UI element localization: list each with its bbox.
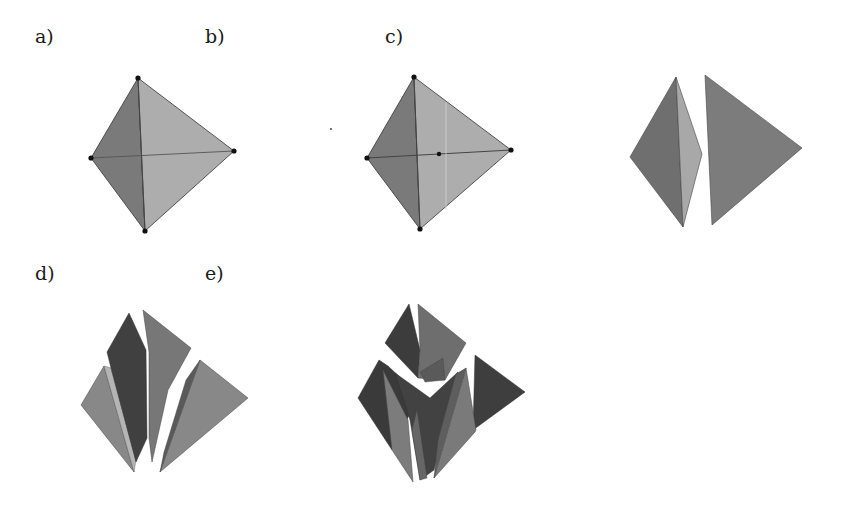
panel-c-split-two	[630, 75, 802, 227]
panel-d-split-four	[81, 310, 248, 472]
figure-canvas	[0, 0, 847, 506]
midpoint-dot	[437, 152, 441, 156]
panel-e-split-many	[358, 304, 525, 482]
face-left	[91, 78, 145, 231]
face-right	[138, 78, 234, 231]
stray-dot	[330, 128, 332, 130]
piece-lower-right-dark	[473, 355, 525, 430]
piece-right	[705, 75, 802, 225]
vertex-dot	[88, 155, 93, 160]
panel-a-tetrahedron	[88, 75, 236, 233]
piece-top-dark	[385, 304, 420, 378]
piece-left-dark	[630, 77, 683, 227]
vertex-dot	[142, 228, 147, 233]
panel-b-tetrahedron	[330, 74, 513, 231]
vertex-dot	[135, 75, 140, 80]
face-left	[367, 77, 420, 229]
vertex-dot	[411, 74, 416, 79]
vertex-dot	[508, 147, 513, 152]
vertex-dot	[231, 148, 236, 153]
vertex-dot	[417, 226, 422, 231]
vertex-dot	[364, 155, 369, 160]
